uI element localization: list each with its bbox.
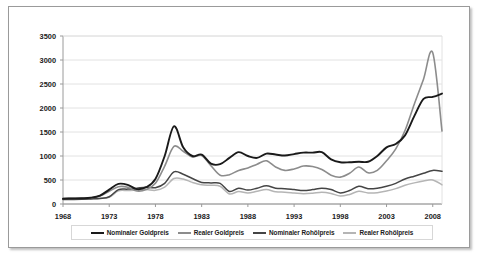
price-history-line-chart: 0500100015002000250030003500 19681973197… (9, 7, 471, 249)
x-tick-label: 1988 (240, 212, 256, 221)
legend-item-label: Realer Goldpreis (194, 229, 244, 236)
legend-item-label: Nominaler Rohölpreis (269, 229, 334, 236)
chart-figure-frame: 0500100015002000250030003500 19681973197… (8, 6, 470, 248)
legend-item-label: Realer Rohölpreis (359, 229, 413, 236)
y-tick-label: 3500 (40, 32, 56, 41)
gridlines-group (63, 36, 442, 204)
legend-item-4[interactable]: Realer Rohölpreis (343, 229, 413, 236)
legend-item-1[interactable]: Nominaler Goldpreis (91, 229, 169, 236)
x-tick-label: 2003 (378, 212, 394, 221)
legend-color-swatch (253, 232, 266, 234)
legend-color-swatch (343, 232, 356, 234)
y-tick-label: 0 (52, 200, 56, 209)
x-tick-label: 2008 (425, 212, 441, 221)
chart-canvas: 0500100015002000250030003500 19681973197… (9, 7, 471, 249)
series-line-nominaler-goldpreis (63, 94, 442, 199)
series-line-realer-goldpreis (63, 51, 442, 198)
legend-color-swatch (178, 232, 191, 234)
chart-legend: Nominaler GoldpreisRealer GoldpreisNomin… (71, 225, 433, 240)
plot-area-border (63, 36, 442, 204)
series-line-nominaler-roh-lpreis (63, 170, 442, 199)
x-tick-label: 1998 (332, 212, 348, 221)
y-tick-label: 3000 (40, 56, 56, 65)
y-axis-tick-labels: 0500100015002000250030003500 (40, 32, 56, 209)
y-tick-label: 2500 (40, 80, 56, 89)
legend-item-label: Nominaler Goldpreis (107, 229, 169, 236)
legend-color-swatch (91, 232, 104, 234)
y-tick-label: 2000 (40, 104, 56, 113)
x-axis-tick-labels: 196819731978198319881993199820032008 (55, 212, 441, 221)
legend-item-2[interactable]: Realer Goldpreis (178, 229, 244, 236)
y-tick-label: 1000 (40, 152, 56, 161)
x-tick-label: 1973 (101, 212, 117, 221)
data-series-group (63, 51, 442, 199)
x-tick-label: 1968 (55, 212, 71, 221)
y-tick-label: 1500 (40, 128, 56, 137)
legend-item-3[interactable]: Nominaler Rohölpreis (253, 229, 334, 236)
x-tick-label: 1978 (147, 212, 163, 221)
x-tick-label: 1993 (286, 212, 302, 221)
x-tick-label: 1983 (193, 212, 209, 221)
y-tick-label: 500 (44, 176, 56, 185)
